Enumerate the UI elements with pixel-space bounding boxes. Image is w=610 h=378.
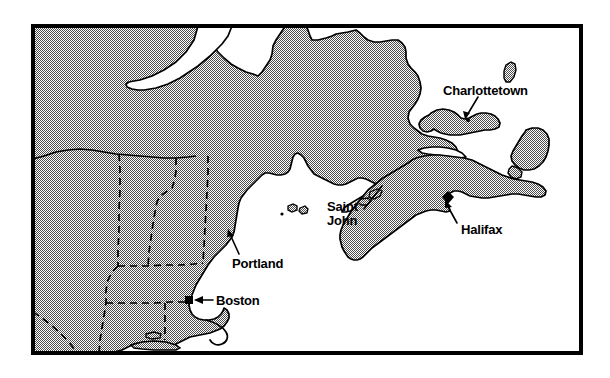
map-canvas (0, 0, 610, 378)
label-boston-text: Boston (216, 293, 260, 308)
label-halifax: Halifax (461, 223, 502, 237)
charlottetown-marker-icon (466, 118, 470, 122)
label-portland-text: Portland (232, 256, 283, 271)
boston-marker-icon (185, 296, 193, 304)
label-halifax-text: Halifax (461, 222, 502, 237)
island-maine-coast-b (299, 206, 308, 214)
map-figure: Charlottetown Saint John Halifax Portlan… (0, 0, 610, 378)
label-saint-john-line1: Saint (327, 200, 358, 214)
label-saint-john-line2: John (327, 214, 358, 228)
label-charlottetown: Charlottetown (443, 84, 528, 98)
border-massachusetts-south (106, 302, 192, 303)
label-portland: Portland (232, 257, 283, 271)
label-saint-john: Saint John (327, 200, 358, 228)
island-block (146, 332, 161, 339)
island-maine-dot (280, 212, 283, 215)
label-boston: Boston (216, 294, 260, 308)
island-maine-coast-a (288, 204, 297, 212)
label-charlottetown-text: Charlottetown (443, 83, 528, 98)
